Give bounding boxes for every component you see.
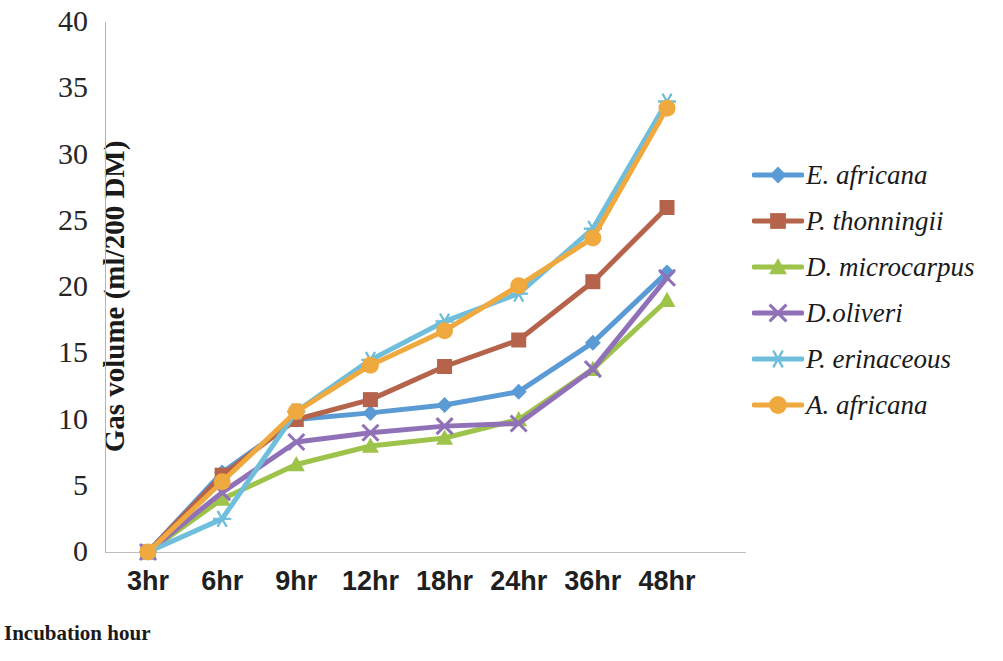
- gas-volume-line-chart: Gas volume (ml/200 DM) 4035302520151050 …: [0, 0, 1003, 661]
- legend-label: D. microcarpus: [804, 252, 975, 283]
- plot-area: [105, 22, 745, 552]
- y-tick-label: 30: [28, 139, 88, 169]
- y-tick-label: 40: [28, 6, 88, 36]
- y-tick-label: 0: [28, 536, 88, 566]
- data-point-circle: [769, 396, 787, 414]
- data-point-triangle: [659, 292, 676, 307]
- data-point-circle: [659, 100, 676, 117]
- data-point-square: [437, 359, 452, 374]
- y-tick-label: 20: [28, 271, 88, 301]
- series-lines: [105, 22, 745, 552]
- y-tick-label: 10: [28, 404, 88, 434]
- y-tick-label: 5: [28, 470, 88, 500]
- data-point-circle: [584, 229, 601, 246]
- legend-marker-triangle-icon: [752, 254, 804, 280]
- data-point-square: [363, 392, 378, 407]
- y-tick-label: 25: [28, 205, 88, 235]
- legend-item[interactable]: D. microcarpus: [752, 244, 1000, 290]
- x-axis-tick-labels: 3hr6hr9hr12hr18hr24hr36hr48hr: [105, 566, 745, 608]
- chart-legend: E. africanaP. thonningiiD. microcarpusD.…: [752, 152, 1000, 428]
- legend-label: A. africana: [804, 390, 928, 421]
- data-point-square: [585, 274, 600, 289]
- data-point-asterisk: [769, 351, 788, 367]
- y-tick-label: 15: [28, 337, 88, 367]
- y-tick-label: 35: [28, 72, 88, 102]
- data-point-circle: [214, 473, 231, 490]
- legend-item[interactable]: A. africana: [752, 382, 1000, 428]
- legend-item[interactable]: D.oliveri: [752, 290, 1000, 336]
- data-point-circle: [288, 403, 305, 420]
- data-point-circle: [436, 322, 453, 339]
- data-point-circle: [510, 277, 527, 294]
- data-point-diamond: [437, 397, 453, 413]
- legend-marker-square-icon: [752, 208, 804, 234]
- legend-marker-circle-icon: [752, 392, 804, 418]
- legend-label: P. erinaceous: [804, 344, 951, 375]
- legend-label: P. thonningii: [804, 206, 944, 237]
- y-axis-tick-labels: 4035302520151050: [26, 0, 88, 661]
- x-tick-label: 48hr: [622, 566, 712, 597]
- legend-label: E. africana: [804, 160, 928, 191]
- legend-item[interactable]: P. thonningii: [752, 198, 1000, 244]
- x-axis-title: Incubation hour: [4, 621, 150, 646]
- data-point-circle: [362, 357, 379, 374]
- legend-marker-x-icon: [752, 300, 804, 326]
- legend-item[interactable]: P. erinaceous: [752, 336, 1000, 382]
- legend-marker-diamond-icon: [752, 162, 804, 188]
- data-point-square: [511, 333, 526, 348]
- x-axis-line: [105, 552, 746, 553]
- data-point-square: [770, 213, 786, 229]
- data-point-diamond: [362, 405, 378, 421]
- data-point-circle: [140, 544, 157, 561]
- legend-label: D.oliveri: [804, 298, 903, 329]
- legend-marker-asterisk-icon: [752, 346, 804, 372]
- data-point-square: [660, 200, 675, 215]
- data-point-diamond: [770, 167, 787, 184]
- legend-item[interactable]: E. africana: [752, 152, 1000, 198]
